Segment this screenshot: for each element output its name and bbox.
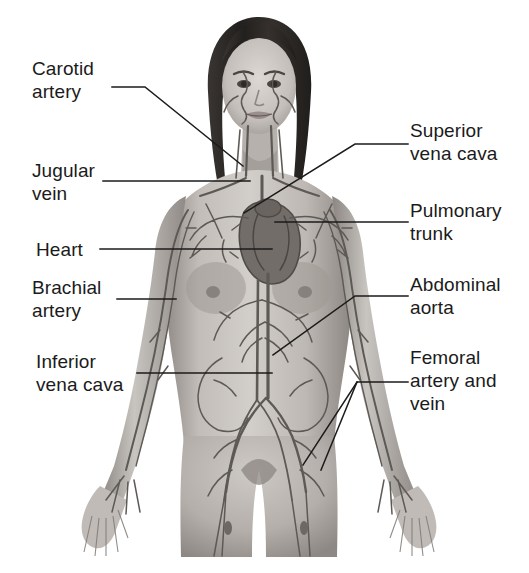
label-carotid-artery: Carotid artery <box>32 57 94 103</box>
label-pulmonary-trunk: Pulmonary trunk <box>410 199 502 245</box>
label-brachial-artery: Brachial artery <box>32 276 101 322</box>
label-superior-vena-cava: Superior vena cava <box>410 119 498 165</box>
label-heart: Heart <box>36 238 83 261</box>
label-jugular-vein: Jugular vein <box>32 159 95 205</box>
label-abdominal-aorta: Abdominal aorta <box>410 273 501 319</box>
circulatory-system-diagram: Carotid arteryJugular veinHeartBrachial … <box>0 0 529 573</box>
label-layer: Carotid arteryJugular veinHeartBrachial … <box>0 0 529 573</box>
label-inferior-vena-cava: Inferior vena cava <box>36 350 124 396</box>
label-femoral-artery-vein: Femoral artery and vein <box>410 346 497 415</box>
